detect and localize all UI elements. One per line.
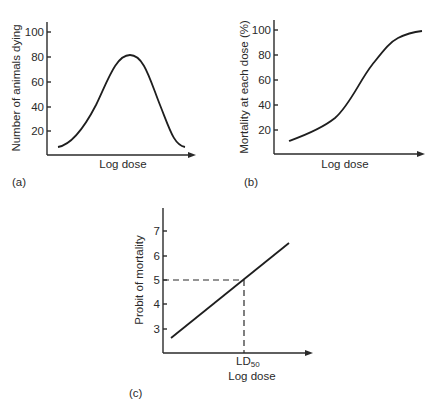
panel-c-tick-6: 6 (154, 250, 160, 262)
panel-b: 100 80 60 40 20 Mortality at each dose (… (238, 20, 425, 188)
panel-c-tick-5: 5 (154, 274, 160, 286)
panel-a-bell-curve (58, 55, 185, 147)
panel-c-probit-line (171, 243, 289, 338)
panel-a-tick-80: 80 (31, 51, 44, 63)
panel-a-tick-100: 100 (25, 26, 44, 38)
panel-a: 100 80 60 40 20 Number of animals dying … (10, 22, 196, 188)
panel-a-label: (a) (12, 176, 26, 188)
panel-a-y-label: Number of animals dying (10, 24, 22, 151)
panel-b-sigmoid-curve (289, 31, 422, 141)
panel-c-x-arrow-icon (305, 350, 313, 356)
panel-b-tick-100: 100 (252, 24, 271, 36)
panel-b-tick-80: 80 (258, 49, 271, 61)
panel-b-tick-20: 20 (258, 124, 271, 136)
panel-c-tick-4: 4 (154, 298, 161, 310)
panel-c-ld50-label: LD50 (236, 355, 260, 369)
panel-c-label: (c) (129, 387, 143, 399)
panel-c-y-label: Probit of mortality (133, 235, 145, 325)
panel-c-tick-7: 7 (154, 225, 160, 237)
panel-b-x-arrow-icon (417, 151, 425, 157)
panel-b-label: (b) (244, 176, 258, 188)
panel-c: 7 6 5 4 3 Probit of mortality LD50 Log d… (129, 208, 313, 399)
panel-b-tick-40: 40 (258, 99, 271, 111)
panel-b-tick-60: 60 (258, 74, 271, 86)
panel-a-x-label: Log dose (99, 158, 146, 170)
figure: 100 80 60 40 20 Number of animals dying … (0, 0, 431, 401)
panel-a-tick-40: 40 (31, 101, 44, 113)
panel-a-x-arrow-icon (188, 152, 196, 158)
panel-a-tick-20: 20 (31, 125, 44, 137)
panel-a-tick-60: 60 (31, 76, 44, 88)
panel-b-x-label: Log dose (321, 158, 368, 170)
panel-b-y-label: Mortality at each dose (%) (238, 20, 250, 154)
panel-c-x-label: Log dose (228, 370, 275, 382)
panel-c-tick-3: 3 (154, 323, 160, 335)
